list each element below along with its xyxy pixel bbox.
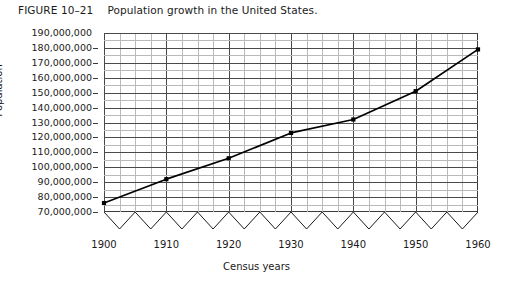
figure-caption: FIGURE 10–21Population growth in the Uni… [18,4,318,16]
population-line-series [104,33,478,212]
y-axis-tick-label: 90,000,000 [38,177,92,187]
y-axis-tick-mark [93,212,98,213]
x-axis-tick-label: 1950 [403,240,428,250]
figure-number: FIGURE 10–21 [18,4,93,16]
y-axis-tick-label: 100,000,000 [32,163,92,173]
y-axis-tick-label: 180,000,000 [32,43,92,53]
y-axis-tick-labels: 190,000,000180,000,000170,000,000160,000… [0,33,98,212]
y-axis-tick-mark [93,123,98,124]
y-axis-tick-label: 140,000,000 [32,103,92,113]
y-axis-tick-label: 130,000,000 [32,118,92,128]
y-axis-tick-label: 110,000,000 [32,148,92,158]
y-axis-tick-label: 80,000,000 [38,192,92,202]
y-axis-tick-mark [93,78,98,79]
y-axis-tick-mark [93,48,98,49]
axis-break-zigzag-icon [104,212,480,234]
y-axis-tick-mark [93,167,98,168]
x-axis-tick-label: 1940 [341,240,366,250]
y-axis-tick-label: 120,000,000 [32,133,92,143]
x-axis-tick-label: 1900 [91,240,116,250]
figure-caption-text: Population growth in the United States. [107,4,317,16]
x-axis-tick-label: 1920 [216,240,241,250]
y-axis-tick-mark [93,152,98,153]
x-axis-title: Census years [0,261,513,272]
y-axis-tick-mark [93,182,98,183]
x-axis-tick-label: 1960 [465,240,490,250]
y-axis-tick-label: 160,000,000 [32,73,92,83]
y-axis-tick-mark [93,197,98,198]
y-axis-tick-mark [93,93,98,94]
y-axis-tick-label: 170,000,000 [32,58,92,68]
y-axis-tick-label: 70,000,000 [38,207,92,217]
y-axis-tick-mark [93,137,98,138]
x-axis-tick-labels: 1900191019201930194019501960 [0,240,513,254]
y-axis-tick-label: 190,000,000 [32,28,92,38]
x-axis-tick-label: 1910 [154,240,179,250]
y-axis-tick-mark [93,108,98,109]
chart-plot-area [104,33,478,212]
x-axis-tick-label: 1930 [278,240,303,250]
y-axis-tick-label: 150,000,000 [32,88,92,98]
y-axis-tick-mark [93,63,98,64]
